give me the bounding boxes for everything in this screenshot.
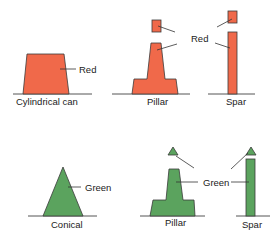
color-label: Green <box>85 182 111 193</box>
red-cylindrical-can: Red Cylindrical can <box>13 54 96 107</box>
topmark-cone <box>168 147 178 155</box>
leader-line <box>176 156 194 168</box>
pillar-shape <box>132 43 178 94</box>
color-label: Red <box>191 33 208 44</box>
red-spar: Spar <box>208 11 255 107</box>
spar-shape <box>228 32 237 94</box>
green-spar: Spar <box>231 147 270 230</box>
topmark-can <box>152 20 161 32</box>
shape-label: Spar <box>242 219 262 230</box>
shape-label: Conical <box>51 219 83 230</box>
shape-label: Pillar <box>147 96 168 107</box>
topmark-can <box>228 11 237 23</box>
red-pillar: Red Pillar <box>112 20 208 107</box>
can-shape <box>23 54 69 94</box>
pillar-shape <box>150 169 195 216</box>
leader-line <box>231 153 248 169</box>
green-pillar: Green Pillar <box>140 147 229 228</box>
spar-shape <box>246 159 255 216</box>
shape-label: Cylindrical can <box>16 96 78 107</box>
color-label: Red <box>79 64 96 75</box>
color-label: Green <box>203 177 229 188</box>
shape-label: Spar <box>226 96 246 107</box>
green-conical: Green Conical <box>28 167 111 230</box>
shape-label: Pillar <box>165 217 186 228</box>
buoy-diagram: Red Cylindrical can Red Pillar Spar Gree… <box>0 0 280 241</box>
cone-shape <box>43 167 83 216</box>
